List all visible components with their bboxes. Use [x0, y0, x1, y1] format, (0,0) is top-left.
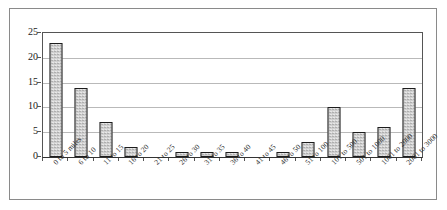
bar-slot: [94, 33, 119, 157]
chart-frame: 0510152025 0 to 5 miles6 to 1011 to 1516…: [9, 8, 437, 200]
bar-slot: [144, 33, 169, 157]
bar-slot: [43, 33, 68, 157]
bar-slot: [245, 33, 270, 157]
y-tick-mark: [37, 82, 41, 83]
bar-slot: [169, 33, 194, 157]
y-tick-mark: [37, 32, 41, 33]
bar-slot: [195, 33, 220, 157]
bar-slot: [119, 33, 144, 157]
plot-area: [42, 32, 423, 158]
y-tick-mark: [37, 106, 41, 107]
bar-slot: [220, 33, 245, 157]
y-tick-mark: [37, 131, 41, 132]
x-axis-labels: 0 to 5 miles6 to 1011 to 1516 to 2021 to…: [42, 161, 423, 209]
bar[interactable]: [49, 43, 62, 157]
y-axis: 0510152025: [19, 25, 41, 165]
y-tick-mark: [37, 57, 41, 58]
bar-slot: [270, 33, 295, 157]
bars-layer: [43, 33, 422, 157]
bar-slot: [296, 33, 321, 157]
y-tick-mark: [37, 156, 41, 157]
bar-slot: [321, 33, 346, 157]
